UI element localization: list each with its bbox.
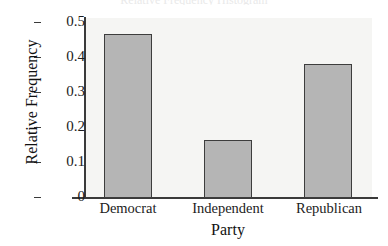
x-axis-title: Party (84, 221, 372, 239)
bar-independent (204, 140, 252, 198)
chart-figure: Relative Frequency Histogram 0.5 0.4 0.3… (0, 0, 388, 246)
y-tick-label: 0.1 (51, 154, 85, 169)
y-tick-label: 0.4 (51, 49, 85, 64)
y-tick-0.5: 0.5 (40, 22, 85, 23)
y-tick-0: 0 (40, 197, 85, 198)
y-tick-0.2: 0.2 (40, 127, 85, 128)
y-tick-label: 0.3 (51, 84, 85, 99)
bar-democrat (104, 34, 152, 198)
y-tick-0.1: 0.1 (40, 162, 85, 163)
y-tick-0.4: 0.4 (40, 57, 85, 58)
x-category-label-democrat: Democrat (88, 201, 168, 217)
y-tick-0.3: 0.3 (40, 92, 85, 93)
bar-republican (304, 64, 352, 198)
y-axis-line (84, 17, 86, 199)
x-category-label-republican: Republican (288, 201, 370, 217)
y-tick-label: 0.5 (51, 14, 85, 29)
x-category-label-independent: Independent (182, 201, 274, 217)
chart-title: Relative Frequency Histogram (0, 0, 388, 5)
y-axis-title: Relative Frequency (23, 7, 41, 197)
y-tick-label: 0.2 (51, 119, 85, 134)
y-tick-label: 0 (51, 189, 85, 204)
